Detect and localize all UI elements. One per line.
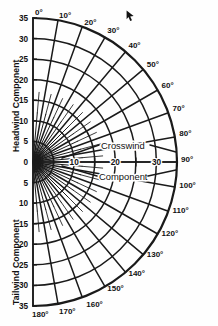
angle-label-0: 0° (35, 8, 43, 17)
crosswind-scale-20: 20 (111, 158, 121, 167)
angle-label-40: 40° (128, 41, 140, 50)
component-leader-right (148, 170, 176, 176)
angle-label-120: 120° (162, 229, 179, 238)
angle-label-130: 130° (147, 250, 164, 259)
angle-label-160: 160° (86, 300, 103, 309)
angle-label-60: 60° (162, 81, 174, 90)
tailwind-scale-5: 5 (23, 179, 28, 188)
angle-label-70: 70° (173, 104, 185, 113)
angle-label-140: 140° (128, 269, 145, 278)
crosswind-scale-10: 10 (70, 158, 80, 167)
headwind-scale-0: 0 (23, 158, 28, 167)
headwind-scale-30: 30 (19, 35, 29, 44)
headwind-component-axis-label: Headwind Component (11, 59, 21, 152)
arrow-pointer-icon (126, 10, 135, 21)
tailwind-component-axis-label: Tailwind Component (11, 219, 21, 305)
crosswind-annotation: Crosswind (101, 140, 145, 151)
angle-label-150: 150° (107, 284, 124, 293)
angle-label-90: 90° (181, 155, 193, 164)
crosswind-leader-right (150, 145, 176, 152)
angle-label-80: 80° (179, 129, 191, 138)
crosswind-component-chart: 0°10°20°30°40°50°60°70°80°90°100°110°120… (0, 0, 218, 326)
tailwind-scale-10: 10 (19, 199, 29, 208)
angle-label-30: 30° (107, 26, 119, 35)
component-annotation: Component (99, 171, 148, 182)
angle-label-50: 50° (147, 60, 159, 69)
headwind-scale-5: 5 (23, 137, 28, 146)
angle-label-170: 170° (59, 307, 76, 316)
crosswind-scale-30: 30 (152, 158, 162, 167)
annotation-labels-group: Crosswind Component (99, 140, 148, 182)
angle-label-100: 100° (179, 181, 196, 190)
headwind-scale-35: 35 (19, 14, 29, 23)
angle-label-10: 10° (59, 11, 71, 20)
angle-label-110: 110° (173, 206, 189, 215)
angle-label-180: 180° (32, 310, 49, 319)
angle-label-20: 20° (84, 18, 96, 27)
polar-grid-svg: 0°10°20°30°40°50°60°70°80°90°100°110°120… (0, 0, 218, 326)
